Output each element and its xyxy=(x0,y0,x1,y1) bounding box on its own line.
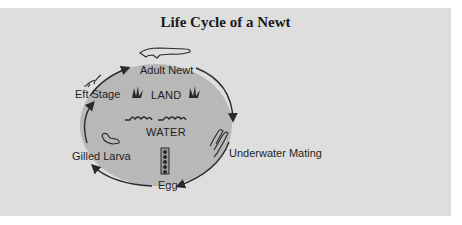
adult-newt-icon xyxy=(140,48,190,58)
zone-label-water: WATER xyxy=(146,127,186,138)
life-cycle-diagram xyxy=(0,0,462,225)
stage-label-gilled-larva: Gilled Larva xyxy=(72,151,131,162)
egg-strand-icon xyxy=(161,148,169,174)
stage-label-underwater-mating: Underwater Mating xyxy=(229,148,322,159)
stage-label-eft-stage: Eft Stage xyxy=(75,89,120,100)
stage-label-egg: Egg xyxy=(158,180,178,191)
zone-label-land: LAND xyxy=(151,90,182,101)
stage-label-adult-newt: Adult Newt xyxy=(140,65,193,76)
